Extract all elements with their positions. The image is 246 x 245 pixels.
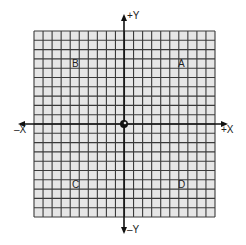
neg-x-label: –X bbox=[14, 125, 26, 135]
pos-y-label: +Y bbox=[127, 11, 140, 21]
origin-marker bbox=[120, 120, 128, 128]
point-b-label: B bbox=[72, 59, 79, 69]
coordinate-grid bbox=[0, 0, 246, 245]
point-d-label: D bbox=[178, 180, 185, 190]
neg-y-label: –Y bbox=[127, 225, 139, 235]
point-c-label: C bbox=[72, 180, 79, 190]
pos-x-label: +X bbox=[221, 125, 234, 135]
point-a-label: A bbox=[178, 59, 185, 69]
